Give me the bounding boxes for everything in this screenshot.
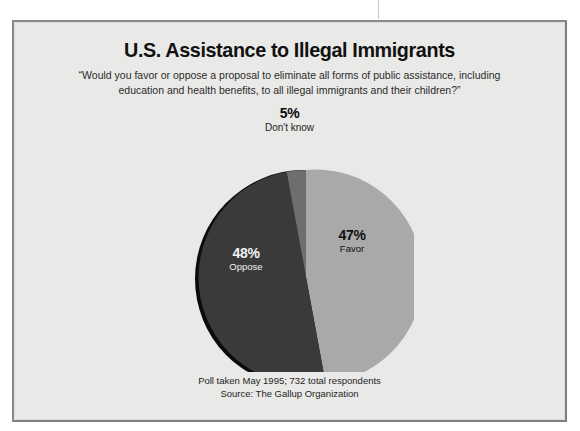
pie-slice-label-oppose-value: 48% xyxy=(208,246,284,261)
chart-panel: U.S. Assistance to Illegal Immigrants “W… xyxy=(12,20,567,422)
chart-footnote: Poll taken May 1995; 732 total responden… xyxy=(14,374,565,400)
chart-subtitle-line-1: “Would you favor or oppose a proposal to… xyxy=(66,68,513,83)
page-title: U.S. Assistance to Illegal Immigrants xyxy=(31,38,549,62)
pie-slice-label-oppose-name: Oppose xyxy=(208,262,284,272)
pie-slice-favor xyxy=(306,170,414,372)
chart-footnote-line-2: Source: The Gallup Organization xyxy=(14,387,565,400)
top-margin-rule xyxy=(378,0,379,19)
pie-chart: 48% Oppose 47% Favor xyxy=(174,142,414,372)
slice-callout-dont-know-value: 5% xyxy=(14,106,565,121)
pie-slice-label-oppose: 48% Oppose xyxy=(208,246,284,272)
chart-subtitle-line-2: education and health benefits, to all il… xyxy=(66,83,513,98)
slice-callout-dont-know: 5% Don't know xyxy=(14,106,565,134)
chart-subtitle: “Would you favor or oppose a proposal to… xyxy=(66,68,513,98)
pie-slice-label-favor-name: Favor xyxy=(314,244,390,254)
chart-footnote-line-1: Poll taken May 1995; 732 total responden… xyxy=(14,374,565,387)
pie-slice-label-favor-value: 47% xyxy=(314,228,390,243)
slice-callout-dont-know-label: Don't know xyxy=(14,121,565,134)
pie-slice-label-favor: 47% Favor xyxy=(314,228,390,254)
